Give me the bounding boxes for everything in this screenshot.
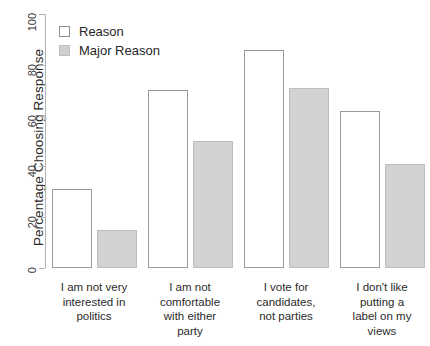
bar-major-reason <box>193 141 233 268</box>
x-axis-category-label: I don't likeputting alabel on myviews <box>334 280 430 342</box>
bar-reason <box>340 111 380 268</box>
x-axis-category-label: I vote forcandidates,not parties <box>238 280 334 342</box>
y-axis-tick-label: 0 <box>26 267 38 301</box>
legend-label-reason: Reason <box>79 24 124 39</box>
x-axis-category-label: I am notcomfortablewith eitherparty <box>142 280 238 342</box>
y-axis-tick-label: 40 <box>26 165 38 199</box>
x-axis-category-label: I am not veryinterested inpolitics <box>46 280 142 342</box>
bar-major-reason <box>97 230 137 268</box>
bar-reason <box>52 189 92 268</box>
y-axis-tick <box>39 166 45 167</box>
legend-item-reason: Reason <box>59 22 160 41</box>
bar-major-reason <box>289 88 329 268</box>
y-axis-tick <box>39 116 45 117</box>
y-axis-tick <box>39 65 45 66</box>
y-axis-tick-label: 20 <box>26 216 38 250</box>
y-axis-tick <box>39 14 45 15</box>
y-axis-tick-label: 80 <box>26 64 38 98</box>
legend: Reason Major Reason <box>59 22 160 60</box>
y-axis-tick-label: 60 <box>26 115 38 149</box>
x-axis-category-labels: I am not veryinterested inpoliticsI am n… <box>46 280 430 342</box>
legend-item-major-reason: Major Reason <box>59 41 160 60</box>
y-axis-tick-label: 100 <box>26 13 38 47</box>
y-axis-tick <box>39 217 45 218</box>
bar-major-reason <box>385 164 425 268</box>
legend-swatch-reason-icon <box>59 26 70 37</box>
legend-label-major-reason: Major Reason <box>79 43 160 58</box>
bar-reason <box>244 50 284 268</box>
legend-swatch-major-reason-icon <box>59 45 70 56</box>
bar-reason <box>148 90 188 268</box>
bar-chart: Percentage Choosing Response 02040608010… <box>0 0 430 346</box>
y-axis-tick <box>39 268 45 269</box>
